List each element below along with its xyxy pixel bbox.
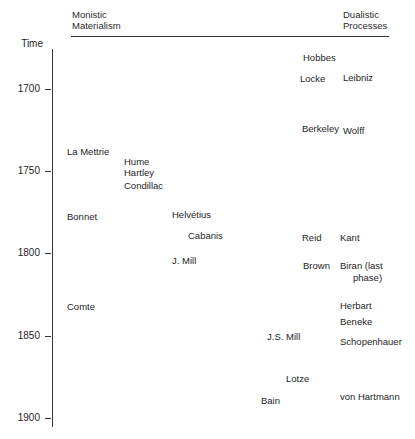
label-lotze: Lotze: [286, 373, 309, 384]
label-brown: Brown: [303, 260, 330, 271]
label-condillac: Condillac: [124, 180, 163, 191]
header-monistic-materialism: Monistic Materialism: [72, 9, 121, 31]
tick-1750: [45, 171, 51, 172]
axis-title: Time: [7, 38, 43, 49]
label-cabanis: Cabanis: [188, 230, 223, 241]
label-bonnet: Bonnet: [67, 211, 97, 222]
label-herbart: Herbart: [340, 300, 372, 311]
label-berkeley: Berkeley: [302, 123, 339, 134]
tick-1850: [45, 336, 51, 337]
label-wolff: Wolff: [343, 125, 364, 136]
label-hobbes: Hobbes: [303, 52, 336, 63]
header-right-line1: Dualistic: [343, 9, 387, 20]
label-von-hartmann: von Hartmann: [340, 391, 400, 402]
label-la-mettrie: La Mettrie: [67, 146, 109, 157]
tick-label-1850: 1850: [2, 330, 40, 341]
tick-1700: [45, 89, 51, 90]
label-js-mill: J.S. Mill: [267, 331, 300, 342]
label-biran: Biran (last phase): [340, 260, 383, 283]
label-biran-line1: Biran (last: [340, 260, 383, 271]
tick-1900: [45, 418, 51, 419]
label-reid: Reid: [302, 232, 322, 243]
label-beneke: Beneke: [340, 316, 372, 327]
tick-label-1900: 1900: [2, 412, 40, 423]
label-helvetius: Helvétius: [172, 209, 211, 220]
label-bain: Bain: [261, 395, 280, 406]
label-comte: Comte: [67, 301, 95, 312]
tick-label-1800: 1800: [2, 247, 40, 258]
tick-label-1750: 1750: [2, 165, 40, 176]
label-leibniz: Leibniz: [343, 72, 373, 83]
tick-label-1700: 1700: [2, 83, 40, 94]
tick-1800: [45, 253, 51, 254]
label-kant: Kant: [340, 232, 360, 243]
header-dualistic-processes: Dualistic Processes: [343, 9, 387, 31]
label-biran-line2: phase): [340, 272, 383, 283]
label-hume: Hume: [124, 156, 149, 167]
time-axis: [52, 49, 53, 427]
label-j-mill: J. Mill: [172, 255, 196, 266]
label-schopenhauer: Schopenhauer: [340, 336, 402, 347]
header-left-line1: Monistic: [72, 9, 121, 20]
header-right-line2: Processes: [343, 20, 387, 31]
header-rule: [71, 36, 389, 37]
label-hartley: Hartley: [124, 167, 154, 178]
label-locke: Locke: [300, 73, 325, 84]
header-left-line2: Materialism: [72, 20, 121, 31]
